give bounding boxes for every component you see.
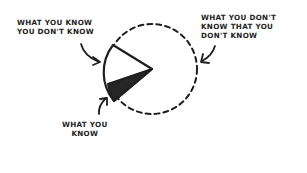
- label-line: know: [62, 129, 108, 138]
- label-line: know that you: [201, 22, 276, 31]
- label-known: What you know: [62, 120, 108, 138]
- label-line: don't know: [201, 31, 276, 40]
- label-known-unknowns: What you know you don't know: [17, 18, 94, 36]
- arrow-known: [99, 98, 107, 114]
- label-line: What you know: [17, 18, 94, 27]
- label-line: What you: [62, 120, 108, 129]
- arrow-known-unknowns: [81, 44, 100, 65]
- label-line: you don't know: [17, 27, 94, 36]
- label-line: What you don't: [201, 13, 276, 22]
- label-unknown-unknowns: What you don't know that you don't know: [201, 13, 276, 40]
- arrow-unknown-unknowns: [201, 46, 215, 63]
